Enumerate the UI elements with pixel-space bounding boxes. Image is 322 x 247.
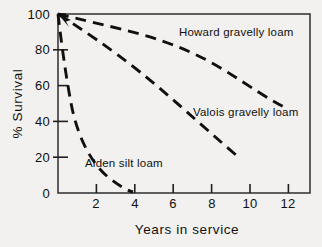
series-label-howard: Howard gravelly loam: [179, 26, 294, 38]
x-tick-label-2: 2: [84, 196, 108, 211]
x-tick-label-8: 8: [200, 196, 224, 211]
series-label-alden: Alden silt loam: [85, 157, 163, 169]
y-tick-label-0: 0: [16, 186, 50, 201]
series-label-valois: Valois gravelly loam: [193, 106, 298, 118]
y-tick-label-20: 20: [16, 150, 50, 165]
survival-vs-years-chart: 100 80 60 40 20 0 2 4 6 8 10 12 % Surviv…: [0, 0, 322, 247]
x-axis-title: Years in service: [112, 222, 262, 237]
y-tick-label-80: 80: [16, 42, 50, 57]
x-axis-ticks: [96, 184, 288, 193]
x-tick-label-12: 12: [276, 196, 300, 211]
x-tick-label-6: 6: [161, 196, 185, 211]
x-tick-label-10: 10: [238, 196, 262, 211]
y-tick-label-100: 100: [16, 7, 50, 22]
x-tick-label-4: 4: [123, 196, 147, 211]
y-axis-title: % Survival: [10, 61, 25, 147]
